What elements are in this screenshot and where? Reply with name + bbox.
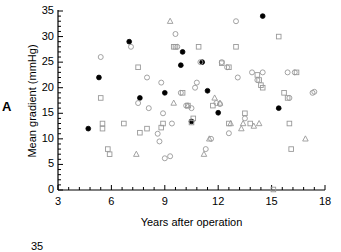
next-panel-partial-ytick: 35: [31, 241, 43, 252]
x-tick-label: 12: [207, 196, 229, 207]
x-tick-label: 18: [314, 196, 336, 207]
x-axis-tick-labels: 369121518: [0, 0, 341, 220]
x-tick-label: 15: [261, 196, 283, 207]
x-tick-label: 9: [154, 196, 176, 207]
x-tick-label: 6: [100, 196, 122, 207]
x-tick-label: 3: [47, 196, 69, 207]
figure-panel-a: A Mean gradient (mmHg) Years after opera…: [0, 0, 341, 252]
